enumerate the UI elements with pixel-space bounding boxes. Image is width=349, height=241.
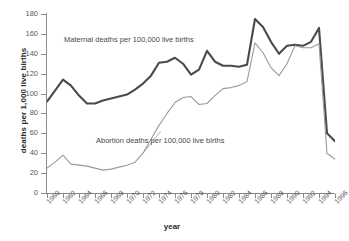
y-tick-label: 120 [18, 69, 38, 78]
y-tick-label: 60 [18, 128, 38, 137]
y-tick-label: 140 [18, 49, 38, 58]
y-tick-label: 100 [18, 89, 38, 98]
y-tick-label: 180 [18, 9, 38, 18]
y-tick-label: 80 [18, 108, 38, 117]
y-tick [41, 173, 46, 174]
y-tick-label: 160 [18, 29, 38, 38]
y-tick [41, 74, 46, 75]
y-tick [41, 94, 46, 95]
y-tick [41, 153, 46, 154]
y-tick [41, 14, 46, 15]
y-tick [41, 113, 46, 114]
y-tick [41, 193, 46, 194]
y-tick [41, 54, 46, 55]
y-tick [41, 133, 46, 134]
x-tick-label: 1996 [333, 189, 349, 205]
x-axis-title: year [0, 222, 344, 231]
y-tick [41, 34, 46, 35]
y-tick-label: 0 [18, 188, 38, 197]
y-tick-label: 40 [18, 148, 38, 157]
series-line [47, 43, 335, 170]
annotation-abortion: Abortion deaths per 100,000 live births [96, 136, 224, 145]
annotation-maternal: Maternal deaths per 100,000 live births [64, 35, 194, 44]
y-tick-label: 20 [18, 168, 38, 177]
